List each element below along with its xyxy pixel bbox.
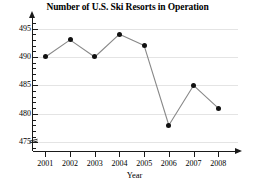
y-axis-tick bbox=[33, 29, 38, 30]
y-axis-minor-tick bbox=[33, 148, 36, 149]
chart-figure: Number of U.S. Ski Resorts in Operation … bbox=[0, 0, 255, 184]
y-axis-minor-tick bbox=[33, 80, 36, 81]
y-axis-tick bbox=[33, 57, 38, 58]
y-axis-minor-tick bbox=[33, 34, 36, 35]
x-axis-tick bbox=[218, 152, 219, 157]
y-axis-minor-tick bbox=[33, 137, 36, 138]
y-axis-minor-tick bbox=[33, 131, 36, 132]
data-series-line bbox=[0, 0, 255, 184]
x-axis-tick bbox=[70, 152, 71, 157]
data-point-marker bbox=[117, 32, 122, 37]
y-axis-minor-tick bbox=[33, 102, 36, 103]
y-axis-minor-tick bbox=[33, 51, 36, 52]
x-axis-tick bbox=[194, 152, 195, 157]
y-axis-minor-tick bbox=[33, 125, 36, 126]
y-axis-minor-tick bbox=[33, 40, 36, 41]
y-axis-minor-tick bbox=[33, 108, 36, 109]
x-axis-tick bbox=[45, 152, 46, 157]
y-axis-minor-tick bbox=[33, 97, 36, 98]
y-axis-minor-tick bbox=[33, 46, 36, 47]
y-axis-minor-tick bbox=[33, 63, 36, 64]
data-point-marker bbox=[142, 43, 147, 48]
x-axis-tick bbox=[144, 152, 145, 157]
y-axis-tick bbox=[33, 114, 38, 115]
x-axis-title: Year bbox=[33, 170, 236, 180]
x-axis-tick bbox=[119, 152, 120, 157]
y-axis-minor-tick bbox=[33, 91, 36, 92]
y-axis-minor-tick bbox=[33, 120, 36, 121]
y-axis-minor-tick bbox=[33, 23, 36, 24]
y-axis-minor-tick bbox=[33, 74, 36, 75]
x-axis-tick bbox=[95, 152, 96, 157]
y-axis-minor-tick bbox=[33, 68, 36, 69]
x-axis-tick bbox=[169, 152, 170, 157]
y-axis-tick bbox=[33, 85, 38, 86]
data-point-marker bbox=[191, 83, 196, 88]
x-axis-tick-label: 2008 bbox=[203, 159, 233, 168]
data-point-marker bbox=[216, 106, 221, 111]
y-axis-tick bbox=[33, 142, 38, 143]
